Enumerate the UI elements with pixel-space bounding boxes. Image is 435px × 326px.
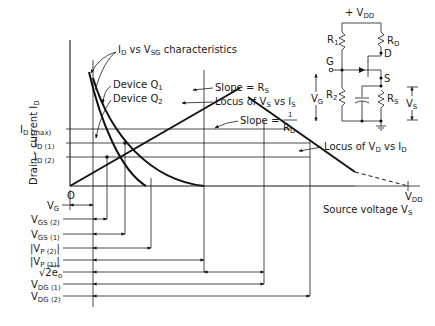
dim-label-sqrt2e0: √2eo (39, 267, 62, 280)
operating-point-2 (105, 155, 109, 159)
locus-vd-id-dashed (355, 172, 408, 186)
drain-label: D (384, 48, 392, 59)
drain-lead (368, 56, 381, 62)
slope-rd-denominator: RD (283, 122, 295, 135)
dim-label-vg: VG (47, 200, 59, 213)
r1-label: R1 (327, 34, 338, 47)
origin-label: O (67, 190, 75, 201)
rs-label: RS (387, 93, 399, 106)
circuit-schematic: + VDD R1 RD D G S R2 (311, 7, 418, 130)
label-locus-vd-id: Locus of VD vs ID (324, 141, 407, 154)
resistor-rs (378, 90, 384, 108)
leader-slope-rs (193, 88, 213, 90)
r2-label: R2 (326, 89, 337, 102)
label-device-q2: Device Q2 (113, 93, 163, 106)
leader-slope-rd (215, 121, 238, 128)
dim-label-vp2: |VP (2)| (30, 243, 60, 256)
resistor-r1 (339, 32, 345, 50)
ground-icon (376, 121, 386, 130)
graph: Drain - current ID ID (max) ID (1) ID (2… (20, 40, 423, 307)
label-slope-rs: Slope = RS (215, 82, 269, 95)
x-axis-label: Source voltage VS (323, 204, 413, 217)
label-slope-rd: Slope = (240, 115, 279, 126)
vs-label: VS (406, 98, 418, 111)
label-device-q1: Device Q1 (113, 79, 163, 92)
dim-label-vdg2: VDG (2) (31, 291, 61, 304)
leader-locus-vd-id (299, 147, 322, 151)
rd-label: RD (387, 35, 399, 48)
leader-device-q1 (103, 86, 111, 103)
dim-label-vgs2: VGS (2) (31, 214, 60, 227)
supply-label: + VDD (345, 7, 374, 20)
dim-label-vgs1: VGS (1) (31, 229, 60, 242)
label-locus-vs-is: Locus of VS vs IS (215, 96, 296, 109)
vg-label: VG (311, 93, 323, 106)
cap-bottom-node (360, 119, 363, 122)
gate-arrow-icon (359, 67, 365, 73)
operating-point-1 (123, 141, 127, 145)
source-lead (368, 70, 381, 78)
x-end-label-vdd: VDD (405, 191, 423, 204)
slope-rd-numerator: 1 (288, 111, 292, 119)
jfet-bias-diagram: Drain - current ID ID (max) ID (1) ID (2… (0, 0, 435, 326)
source-label: S (384, 73, 390, 84)
dimension-lines: VG VGS (2) VGS (1) |VP (2)| |VP (1)| √2e… (30, 190, 310, 304)
gate-node (340, 68, 343, 71)
gate-label: G (326, 56, 334, 67)
drain-node (379, 51, 382, 54)
resistor-r2 (339, 88, 345, 106)
wire-cap-top (362, 86, 381, 97)
gate-terminal (329, 68, 333, 72)
leader-locus-vs-is (182, 102, 213, 103)
label-characteristics: ID vs VSG characteristics (118, 44, 237, 57)
